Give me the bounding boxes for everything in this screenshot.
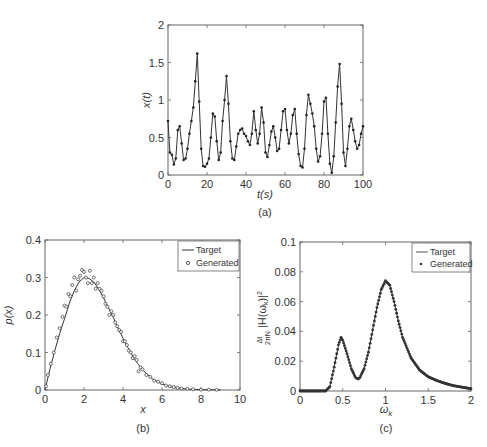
plot-b-caption: (b) xyxy=(136,422,149,434)
plot-c-legend-generated: Generated xyxy=(430,259,473,269)
y-tick-label: 0.06 xyxy=(275,296,296,308)
x-tick-label: 20 xyxy=(201,178,213,190)
plot-c-xlabel: ωk xyxy=(380,403,394,418)
y-tick-label: 0.04 xyxy=(275,325,296,337)
y-tick-label: 0.5 xyxy=(149,132,164,144)
plot-c-ylabel: Δt2πN |H(ωk)|2 xyxy=(256,291,271,345)
plot-b-legend-generated: Generated xyxy=(196,258,239,268)
x-tick-label: 0 xyxy=(42,393,48,405)
y-tick-label: 0.08 xyxy=(275,266,296,278)
x-tick-label: 40 xyxy=(240,178,252,190)
plot-c-legend: Target Generated xyxy=(412,243,473,272)
panel-a-time-series: 020406080100 00.511.52 t(s) x(t) (a) xyxy=(140,19,372,218)
y-tick-label: 0.4 xyxy=(26,234,41,246)
plot-c-caption: (c) xyxy=(380,422,393,434)
panel-b-density: 0246810 00.10.20.30.4 Target Generated x… xyxy=(2,234,246,434)
y-tick-label: 2 xyxy=(158,19,164,31)
y-tick-label: 0.2 xyxy=(26,309,41,321)
plot-a-series-line xyxy=(168,54,363,173)
y-tick-label: 0 xyxy=(35,384,41,396)
x-tick-label: 10 xyxy=(234,393,246,405)
legend-marker-icon xyxy=(186,261,189,264)
x-tick-label: 2 xyxy=(468,394,474,406)
y-tick-label: 1.5 xyxy=(149,57,164,69)
y-tick-label: 0.3 xyxy=(26,272,41,284)
x-tick-label: 0 xyxy=(165,178,171,190)
svg-text:Δt2πN |H(ωk)|2: Δt2πN |H(ωk)|2 xyxy=(256,291,271,345)
plot-c-generated-markers xyxy=(299,279,473,392)
x-tick-label: 100 xyxy=(354,178,372,190)
y-tick-label: 0 xyxy=(290,385,296,397)
plot-b-generated-markers xyxy=(44,269,218,392)
x-tick-label: 6 xyxy=(159,393,165,405)
x-tick-label: 0.5 xyxy=(335,394,350,406)
y-tick-label: 0.1 xyxy=(281,236,296,248)
plot-b-legend: Target Generated xyxy=(178,241,239,271)
plot-a-ylabel: x(t) xyxy=(140,92,152,109)
plot-b-target-line xyxy=(45,278,221,391)
x-tick-label: 0 xyxy=(297,394,303,406)
plot-a-xlabel: t(s) xyxy=(257,188,273,200)
plot-a-x-ticks: 020406080100 xyxy=(165,25,372,190)
legend-marker-icon xyxy=(420,263,423,266)
y-tick-label: 0.1 xyxy=(26,347,41,359)
y-tick-label: 0.02 xyxy=(275,355,296,367)
x-tick-label: 80 xyxy=(318,178,330,190)
plot-b-ylabel: p(x) xyxy=(2,305,14,325)
x-tick-label: 2 xyxy=(81,393,87,405)
plot-a-y-ticks: 00.511.52 xyxy=(149,19,363,181)
plot-b-xlabel: x xyxy=(139,403,146,415)
x-tick-label: 60 xyxy=(279,178,291,190)
plot-a-caption: (a) xyxy=(258,206,271,218)
plot-b-legend-target: Target xyxy=(196,245,222,255)
x-tick-label: 8 xyxy=(198,393,204,405)
figure: 020406080100 00.511.52 t(s) x(t) (a) 024… xyxy=(0,0,487,447)
x-tick-label: 1.5 xyxy=(421,394,436,406)
panel-c-spectrum: 00.511.52 00.020.040.060.080.1 Target Ge… xyxy=(256,236,474,434)
plot-c-target-line xyxy=(300,281,471,391)
x-tick-label: 4 xyxy=(120,393,126,405)
plot-c-legend-target: Target xyxy=(430,247,456,257)
y-tick-label: 0 xyxy=(158,169,164,181)
y-tick-label: 1 xyxy=(158,94,164,106)
